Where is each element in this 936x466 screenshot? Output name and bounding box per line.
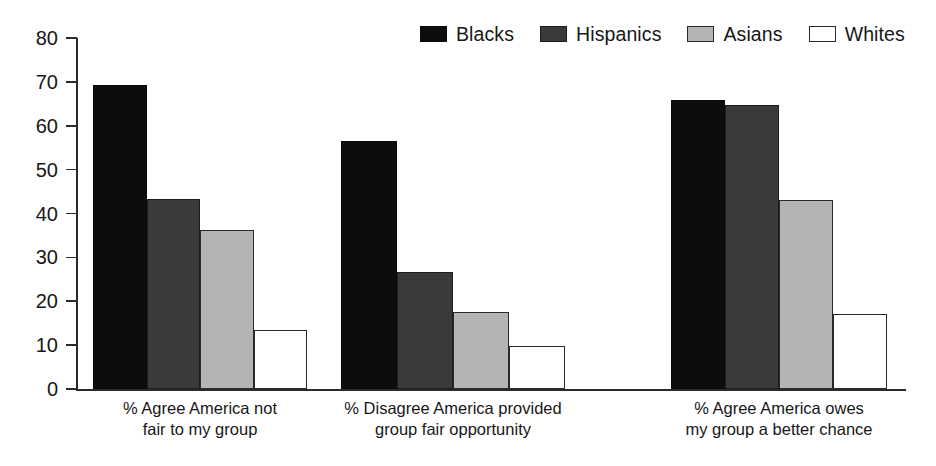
bar-whites-group-1 (254, 330, 308, 389)
bar-hispanics-group-3 (725, 105, 779, 389)
bar-blacks-group-2 (341, 141, 397, 389)
group-label-2: % Disagree America provided group fair o… (303, 398, 603, 440)
y-axis-tick-label: 80 (14, 28, 58, 48)
y-axis-tick-label: 50 (14, 160, 58, 180)
y-axis-tick-label: 0 (14, 379, 58, 399)
bar-chart: Blacks Hispanics Asians Whites 807060504… (0, 0, 936, 466)
bar-asians-group-2 (453, 312, 509, 389)
bar-blacks-group-3 (671, 100, 725, 389)
group-label-3: % Agree America owes my group a better c… (629, 398, 929, 440)
y-axis-tick (66, 81, 77, 83)
y-axis-tick-label: 40 (14, 204, 58, 224)
y-axis-tick (66, 300, 77, 302)
y-axis-tick (66, 257, 77, 259)
bar-hispanics-group-1 (147, 199, 201, 389)
y-axis-tick (66, 344, 77, 346)
plot-area: 80706050403020100 % Agree America not fa… (0, 0, 936, 466)
y-axis-tick (66, 169, 77, 171)
bar-asians-group-3 (779, 200, 833, 389)
bar-whites-group-3 (833, 314, 887, 389)
y-axis-tick-label: 10 (14, 335, 58, 355)
bar-whites-group-2 (509, 346, 565, 389)
x-axis-line (76, 389, 906, 391)
bar-blacks-group-1 (93, 85, 147, 389)
y-axis-tick (66, 37, 77, 39)
y-axis-tick-label: 30 (14, 247, 58, 267)
bar-hispanics-group-2 (397, 272, 453, 389)
bar-asians-group-1 (200, 230, 254, 389)
y-axis-tick-label: 60 (14, 116, 58, 136)
y-axis-tick (66, 213, 77, 215)
y-axis-tick (66, 125, 77, 127)
y-axis-tick-label: 70 (14, 72, 58, 92)
y-axis-tick-label: 20 (14, 291, 58, 311)
y-axis-tick (66, 388, 77, 390)
